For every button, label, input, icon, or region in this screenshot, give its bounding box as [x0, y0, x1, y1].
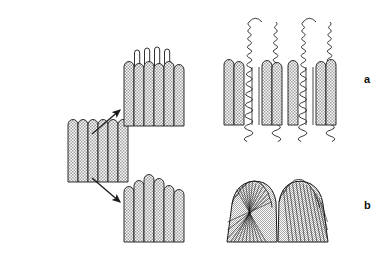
stage-row-b-middle: [124, 175, 184, 243]
stage-row-b-right: [227, 179, 328, 242]
palisade-column: [108, 120, 118, 182]
palisade-column: [174, 65, 184, 127]
stage-row-a-right: [224, 18, 336, 141]
palisade-column: [144, 175, 154, 243]
palisade-column: [224, 60, 234, 126]
palisade-column: [68, 120, 78, 182]
stage-row-a-middle: [124, 47, 184, 126]
palisade-column: [134, 64, 144, 126]
palisade-column: [316, 62, 326, 125]
palisade-column: [154, 179, 164, 242]
palisade-column: [124, 187, 134, 243]
spiral-apex: [303, 18, 316, 22]
fan-structure: [227, 181, 277, 242]
palisade-column: [234, 62, 244, 125]
palisade-column: [134, 181, 144, 242]
palisade-column: [262, 61, 272, 126]
palisade-column: [272, 63, 282, 125]
palisade-column: [118, 120, 128, 182]
palisade-column: [88, 120, 98, 182]
palisade-column: [98, 120, 108, 182]
palisade-column: [78, 120, 88, 182]
palisade-column: [174, 190, 184, 242]
palisade-column: [124, 62, 134, 127]
palisade-column: [154, 64, 164, 126]
palisade-column: [288, 61, 298, 126]
morphology-diagram: [0, 0, 391, 254]
palisade-column: [164, 186, 174, 243]
fan-structure: [278, 179, 328, 242]
spiral-apex: [249, 18, 262, 22]
palisade-column: [164, 62, 174, 127]
panel-label-a: a: [364, 73, 370, 85]
palisade-column: [144, 62, 154, 127]
palisade-column: [326, 60, 336, 126]
panel-label-b: b: [364, 199, 371, 211]
